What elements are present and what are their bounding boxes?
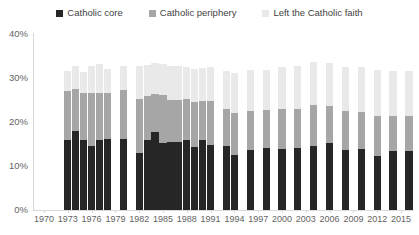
bar-segment-left-the-catholic-faith (80, 72, 87, 93)
bar-2010 (358, 67, 365, 210)
bar-segment-left-the-catholic-faith (310, 62, 317, 105)
x-axis-tickmark-2000 (282, 210, 283, 213)
bar-segment-left-the-catholic-faith (294, 66, 301, 109)
bar-segment-catholic-periphery (72, 89, 79, 131)
x-axis-tickmark-1997 (258, 210, 259, 213)
bar-segment-catholic-core (144, 140, 151, 210)
bar-segment-left-the-catholic-faith (326, 63, 333, 107)
bar-segment-left-the-catholic-faith (247, 70, 254, 111)
x-axis-tick-1973: 1973 (58, 215, 78, 224)
bar-segment-left-the-catholic-faith (175, 66, 182, 100)
bar-segment-catholic-core (136, 153, 143, 210)
bar-1989 (191, 69, 198, 210)
y-axis-tick-10: 10% (0, 161, 28, 171)
bar-segment-left-the-catholic-faith (278, 67, 285, 109)
legend-swatch-left-the-catholic-faith (262, 10, 269, 17)
bar-2012 (374, 70, 381, 210)
bar-2016 (405, 71, 412, 210)
bar-1985 (159, 64, 166, 211)
bar-segment-catholic-core (80, 140, 87, 210)
bar-1975 (80, 72, 87, 210)
bar-2000 (278, 67, 285, 210)
bar-segment-catholic-core (120, 139, 127, 210)
bar-segment-catholic-core (310, 146, 317, 210)
bar-segment-catholic-periphery (151, 94, 158, 131)
x-axis-tick-1976: 1976 (82, 215, 102, 224)
bar-segment-left-the-catholic-faith (64, 71, 71, 91)
bar-segment-catholic-periphery (358, 112, 365, 149)
bar-segment-catholic-periphery (342, 111, 349, 151)
bar-segment-catholic-core (88, 146, 95, 210)
x-axis-tick-1991: 1991 (201, 215, 221, 224)
x-axis-tick-2000: 2000 (272, 215, 292, 224)
bar-segment-left-the-catholic-faith (104, 69, 111, 93)
stacked-bar-chart: Catholic core Catholic periphery Left th… (0, 0, 419, 235)
bar-segment-catholic-core (223, 146, 230, 210)
x-axis-tick-2003: 2003 (296, 215, 316, 224)
x-axis-tickmark-1982 (139, 210, 140, 213)
bar-2002 (294, 66, 301, 210)
bar-segment-left-the-catholic-faith (199, 68, 206, 101)
bar-segment-catholic-periphery (310, 105, 317, 146)
bar-2004 (310, 62, 317, 210)
x-axis-tickmark-1979 (115, 210, 116, 213)
bar-segment-catholic-core (231, 155, 238, 210)
y-axis-tick-20: 20% (0, 117, 28, 127)
bar-segment-left-the-catholic-faith (374, 70, 381, 117)
bar-segment-catholic-core (278, 149, 285, 210)
bar-segment-left-the-catholic-faith (358, 67, 365, 112)
bar-segment-catholic-core (96, 140, 103, 210)
bar-1978 (104, 69, 111, 210)
bar-segment-catholic-core (207, 145, 214, 210)
bar-segment-catholic-periphery (88, 93, 95, 145)
x-axis-tick-1985: 1985 (153, 215, 173, 224)
legend-label-left-the-catholic-faith: Left the Catholic faith (273, 8, 362, 18)
x-axis-tick-2006: 2006 (320, 215, 340, 224)
x-axis-tick-labels: 1970197319761979198219851988199119941997… (0, 215, 419, 229)
legend-item-catholic-core: Catholic core (56, 8, 122, 18)
bar-1998 (263, 70, 270, 210)
bar-segment-catholic-periphery (199, 101, 206, 139)
bar-segment-catholic-core (374, 156, 381, 210)
bar-segment-catholic-periphery (191, 102, 198, 147)
bar-segment-catholic-periphery (278, 109, 285, 149)
bar-segment-left-the-catholic-faith (405, 71, 412, 117)
bar-segment-catholic-periphery (294, 109, 301, 148)
bar-segment-catholic-core (199, 140, 206, 210)
bar-segment-catholic-periphery (263, 110, 270, 147)
bar-1994 (231, 73, 238, 210)
x-axis-tickmark-1991 (211, 210, 212, 213)
bar-segment-catholic-periphery (389, 116, 396, 151)
bar-segment-left-the-catholic-faith (120, 66, 127, 91)
bar-segment-catholic-core (263, 148, 270, 210)
bar-segment-catholic-core (247, 150, 254, 210)
y-axis-tick-0: 0% (0, 205, 28, 215)
bar-segment-catholic-periphery (80, 93, 87, 140)
y-axis-tick-labels: 0%10%20%30%40% (0, 0, 30, 235)
y-axis-tick-40: 40% (0, 29, 28, 39)
bar-1987 (175, 66, 182, 210)
bar-segment-catholic-periphery (247, 111, 254, 151)
bar-1973 (64, 71, 71, 210)
bar-segment-catholic-core (191, 147, 198, 210)
x-axis-tickmark-2006 (330, 210, 331, 213)
bar-segment-catholic-periphery (374, 116, 381, 156)
bar-segment-catholic-periphery (167, 100, 174, 142)
bar-segment-catholic-core (342, 150, 349, 210)
bar-segment-catholic-periphery (231, 113, 238, 155)
bar-segment-catholic-core (326, 143, 333, 210)
x-axis-tickmark-2009 (353, 210, 354, 213)
bar-segment-catholic-periphery (96, 93, 103, 140)
x-axis-tick-1988: 1988 (177, 215, 197, 224)
bar-segment-left-the-catholic-faith (231, 73, 238, 113)
x-axis-tickmark-2012 (377, 210, 378, 213)
x-axis-tickmark-2015 (401, 210, 402, 213)
bar-segment-left-the-catholic-faith (72, 66, 79, 90)
bar-segment-left-the-catholic-faith (207, 67, 214, 101)
bar-segment-catholic-core (167, 142, 174, 210)
x-axis-tick-1982: 1982 (129, 215, 149, 224)
legend-item-catholic-periphery: Catholic periphery (149, 8, 237, 18)
bar-segment-catholic-periphery (223, 109, 230, 146)
bar-1976 (88, 66, 95, 210)
x-axis-tick-2012: 2012 (367, 215, 387, 224)
